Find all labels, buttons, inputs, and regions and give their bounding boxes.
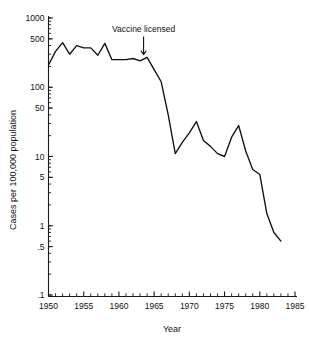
arrow-down-icon	[141, 37, 146, 55]
y-tick-label: 1000	[26, 13, 45, 23]
y-tick-label: 50	[35, 103, 45, 113]
x-axis-title: Year	[163, 324, 181, 334]
x-axis-tick-labels: 19501955196019651970197519801985	[39, 301, 305, 311]
y-tick-label: 1	[40, 221, 45, 231]
y-axis-title: Cases per 100,000 population	[8, 110, 18, 230]
x-tick-label: 1975	[215, 301, 234, 311]
series-line-measles-incidence	[49, 43, 281, 241]
chart-figure: 1000500100501051.5.1 1950195519601965197…	[0, 0, 309, 338]
x-tick-label: 1965	[145, 301, 164, 311]
y-tick-label: 10	[35, 152, 45, 162]
y-tick-label: 500	[30, 34, 44, 44]
measles-incidence-line-chart: 1000500100501051.5.1 1950195519601965197…	[0, 0, 309, 338]
x-tick-label: 1980	[250, 301, 269, 311]
annotation-vaccine-licensed: Vaccine licensed	[112, 24, 175, 55]
y-tick-label: 5	[40, 172, 45, 182]
x-axis-ticks	[49, 292, 296, 297]
y-axis-tick-labels: 1000500100501051.5.1	[26, 13, 45, 300]
x-tick-label: 1970	[180, 301, 199, 311]
y-tick-label: .5	[37, 242, 44, 252]
y-tick-label: 100	[30, 82, 44, 92]
y-tick-label: .1	[37, 290, 44, 300]
x-tick-label: 1960	[109, 301, 128, 311]
annotation-label: Vaccine licensed	[112, 24, 175, 34]
x-tick-label: 1955	[74, 301, 93, 311]
x-tick-label: 1950	[39, 301, 58, 311]
x-tick-label: 1985	[286, 301, 305, 311]
